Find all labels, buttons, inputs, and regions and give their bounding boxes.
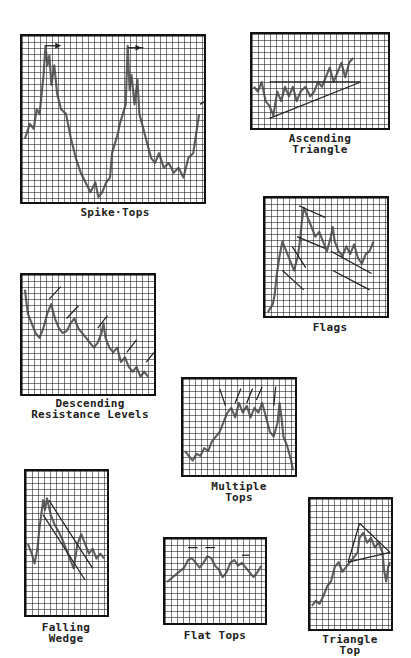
chart-descending-resistance <box>20 273 156 396</box>
spike-tops-plot <box>22 36 204 202</box>
chart-ascending-triangle <box>250 32 390 130</box>
falling-wedge-plot <box>26 471 107 615</box>
flags-plot <box>265 198 387 316</box>
chart-flags <box>263 196 389 318</box>
caption-flat-tops: Flat Tops <box>175 630 255 641</box>
flat-tops-plot <box>165 539 265 623</box>
caption-triangle-top: Triangle Top <box>310 634 390 656</box>
chart-flat-tops <box>163 537 267 625</box>
chart-multiple-tops <box>181 377 297 477</box>
ascending-triangle-plot <box>252 34 388 128</box>
chart-falling-wedge <box>24 469 109 617</box>
caption-falling-wedge: Falling Wedge <box>26 622 106 644</box>
chart-triangle-top <box>308 497 393 631</box>
caption-multiple-tops: Multiple Tops <box>199 481 279 503</box>
chart-spike-tops <box>20 34 206 204</box>
triangle-top-plot <box>310 499 391 629</box>
caption-flags: Flags <box>300 322 360 333</box>
multiple-tops-plot <box>183 379 295 475</box>
caption-descending-resistance: Descending Resistance Levels <box>10 398 170 420</box>
caption-spike-tops: Spike·Tops <box>60 207 170 218</box>
caption-ascending-triangle: Ascending Triangle <box>270 133 370 155</box>
descending-resistance-plot <box>22 275 154 394</box>
